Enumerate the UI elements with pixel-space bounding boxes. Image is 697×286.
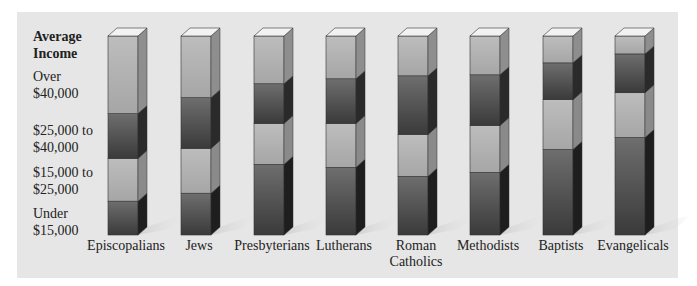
segment-side: [356, 28, 365, 79]
bar-jews: [181, 28, 260, 235]
segment-front: [398, 176, 428, 235]
segment-side: [500, 164, 509, 235]
segment-front: [470, 172, 500, 235]
segment-side: [284, 76, 293, 124]
segment-front: [254, 164, 284, 235]
segment-side: [356, 159, 365, 235]
segment-front: [181, 193, 211, 235]
segment-front: [543, 36, 573, 63]
segment-front: [470, 75, 500, 126]
category-label: Lutherans: [316, 238, 372, 254]
segment-front: [615, 36, 645, 54]
segment-front: [181, 148, 211, 193]
bar-baptists: [543, 28, 622, 235]
segment-side: [211, 90, 220, 149]
segment-side: [428, 168, 437, 235]
segment-side: [500, 118, 509, 173]
category-label: Baptists: [538, 238, 583, 254]
category-label: Episcopalians: [87, 238, 165, 254]
segment-side: [284, 28, 293, 84]
segment-side: [211, 185, 220, 235]
segment-side: [573, 141, 582, 235]
segment-front: [326, 124, 356, 168]
segment-side: [211, 28, 220, 98]
category-label: Methodists: [457, 238, 519, 254]
segment-side: [428, 68, 437, 135]
segment-side: [645, 85, 654, 138]
category-label: Jews: [185, 238, 212, 254]
segment-front: [326, 79, 356, 124]
segment-front: [398, 36, 428, 76]
segment-front: [326, 167, 356, 235]
segment-front: [615, 54, 645, 93]
segment-front: [615, 137, 645, 235]
bar-episcopalians: [108, 28, 187, 235]
category-label: Presbyterians: [234, 238, 309, 254]
segment-front: [398, 135, 428, 177]
segment-side: [211, 140, 220, 193]
segment-front: [470, 36, 500, 75]
bar-lutherans: [326, 28, 405, 235]
segment-front: [108, 201, 138, 235]
segment-front: [108, 36, 138, 114]
segment-front: [254, 124, 284, 165]
segment-front: [254, 36, 284, 84]
segment-front: [615, 93, 645, 138]
category-label: RomanCatholics: [390, 238, 443, 270]
segment-front: [543, 63, 573, 100]
segment-side: [284, 116, 293, 165]
segment-side: [138, 28, 147, 114]
bar-presbyterians: [254, 28, 333, 235]
segment-front: [181, 36, 211, 98]
segment-side: [573, 92, 582, 150]
bar-evangelicals: [615, 28, 694, 235]
segment-side: [356, 71, 365, 124]
bar-roman-catholics: [398, 28, 477, 235]
segment-side: [284, 156, 293, 235]
segment-side: [138, 106, 147, 159]
segment-front: [470, 126, 500, 173]
segment-side: [428, 127, 437, 177]
segment-front: [108, 158, 138, 201]
segment-side: [356, 116, 365, 168]
segment-front: [398, 76, 428, 135]
category-label: Evangelicals: [597, 238, 669, 254]
segment-front: [543, 100, 573, 150]
segment-front: [108, 114, 138, 159]
segment-front: [543, 149, 573, 235]
segment-front: [181, 98, 211, 149]
segment-side: [645, 129, 654, 235]
bar-methodists: [470, 28, 549, 235]
segment-front: [254, 84, 284, 124]
segment-front: [326, 36, 356, 79]
segment-side: [138, 150, 147, 201]
segment-side: [500, 67, 509, 126]
